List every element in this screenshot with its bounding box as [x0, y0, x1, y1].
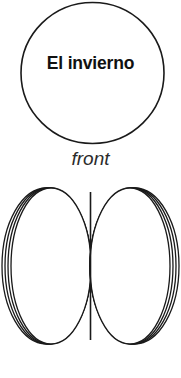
front-panel-group: El invierno front: [0, 0, 181, 172]
front-card-text: El invierno: [0, 55, 181, 73]
inside-ellipses-outline: [0, 180, 181, 355]
left-leaf-group: [2, 188, 91, 344]
inside-panel-group: inside: [0, 180, 181, 378]
right-leaf-outline-1: [90, 188, 170, 344]
front-circle-outline: [18, 0, 167, 148]
left-leaf-outline-1: [11, 188, 91, 344]
card-diagram: El invierno front inside: [0, 0, 181, 378]
right-leaf-group: [90, 188, 179, 344]
circle-shape: [21, 3, 164, 144]
front-caption: front: [0, 149, 181, 168]
